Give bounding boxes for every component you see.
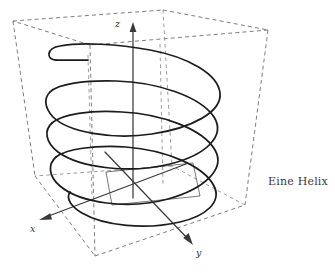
box-bottom-right-back-edge bbox=[172, 166, 245, 205]
x-axis-arrowhead bbox=[39, 213, 52, 220]
helix-figure-container: x y z Eine Helix bbox=[0, 0, 335, 273]
box-guide-vertical-b bbox=[160, 44, 163, 186]
helix-turn-2 bbox=[47, 81, 218, 169]
box-top-back-right-edge bbox=[163, 10, 268, 30]
box-vertical-edge-right bbox=[245, 30, 268, 205]
z-axis-label: z bbox=[114, 18, 121, 29]
box-vertical-edge-left bbox=[13, 21, 35, 176]
box-top-back-left-edge bbox=[13, 10, 163, 21]
box-bottom-front-right-edge bbox=[95, 205, 245, 256]
box-guide-vertical-a bbox=[88, 55, 92, 196]
z-axis-arrowhead bbox=[130, 22, 137, 32]
y-axis-label: y bbox=[195, 247, 202, 258]
helix-diagram: x y z bbox=[0, 0, 335, 273]
figure-caption: Eine Helix bbox=[268, 175, 328, 188]
x-axis-label: x bbox=[30, 223, 36, 234]
box-top-front-left-edge bbox=[13, 21, 90, 45]
helix-turn-4-partial bbox=[56, 146, 216, 226]
helix-turn-3 bbox=[50, 111, 217, 204]
box-top-front-right-edge bbox=[90, 30, 268, 45]
